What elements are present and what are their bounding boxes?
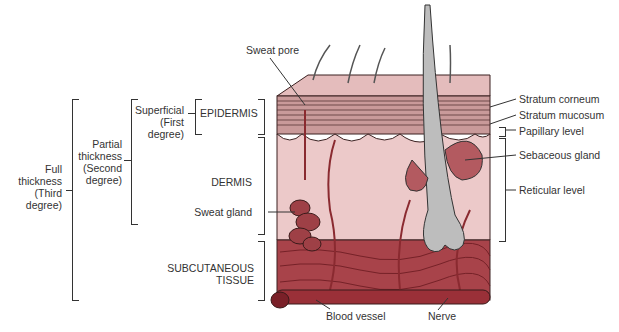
label-epidermis: EPIDERMIS: [200, 107, 258, 119]
label-subcutaneous: SUBCUTANEOUS TISSUE: [160, 262, 254, 286]
label-nerve: Nerve: [428, 310, 456, 322]
label-sweat-pore: Sweat pore: [246, 44, 299, 56]
label-reticular-level: Reticular level: [519, 184, 585, 196]
subcutaneous-bracket: [258, 241, 265, 301]
label-superficial: Superficial (First degree): [126, 104, 184, 140]
label-sweat-gland: Sweat gland: [170, 206, 252, 218]
reticular-bracket: [499, 138, 506, 242]
label-sebaceous-gland: Sebaceous gland: [519, 149, 600, 161]
label-full-thickness: Full thickness (Third degree): [14, 163, 62, 211]
dermis-bracket: [258, 137, 265, 235]
full-thickness-bracket: [72, 99, 79, 301]
papillary-bracket: [499, 127, 506, 137]
epidermis-bracket: [258, 99, 265, 135]
label-papillary-level: Papillary level: [519, 125, 584, 137]
label-stratum-corneum: Stratum corneum: [519, 93, 600, 105]
label-stratum-mucosum: Stratum mucosum: [519, 109, 604, 121]
label-blood-vessel: Blood vessel: [326, 310, 386, 322]
label-partial-thickness: Partial thickness (Second degree): [72, 138, 122, 186]
label-dermis: DERMIS: [190, 176, 252, 188]
